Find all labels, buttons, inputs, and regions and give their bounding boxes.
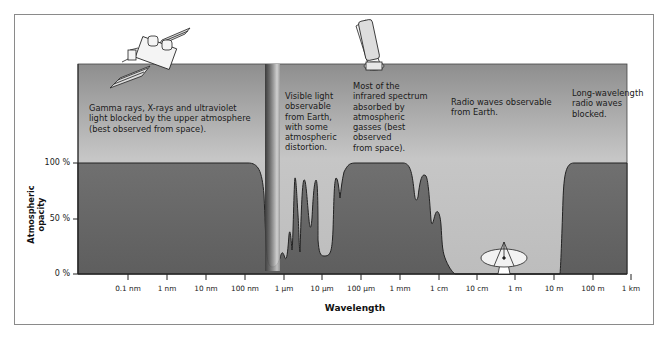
annotation-visible: Visible light observable from Earth, wit… [285, 91, 337, 153]
visible-light-band-overlay [265, 64, 280, 271]
y-axis-label: Atmospheric opacity [27, 185, 46, 245]
annotation-infrared: Most of the infrared spectrum absorbed b… [353, 81, 427, 153]
annotation-radio: Radio waves observable from Earth. [451, 97, 552, 118]
y-tick-100: 100 % [30, 158, 70, 167]
space-telescope-icon [356, 19, 384, 70]
annotation-gamma: Gamma rays, X-rays and ultraviolet light… [89, 103, 251, 134]
x-tick-marks [128, 274, 631, 280]
y-tick-0: 0 % [30, 269, 70, 278]
annotation-long-wave: Long-wavelength radio waves blocked. [572, 88, 643, 119]
x-tick-label: 1 km [606, 284, 656, 293]
x-axis-label: Wavelength [300, 303, 410, 313]
